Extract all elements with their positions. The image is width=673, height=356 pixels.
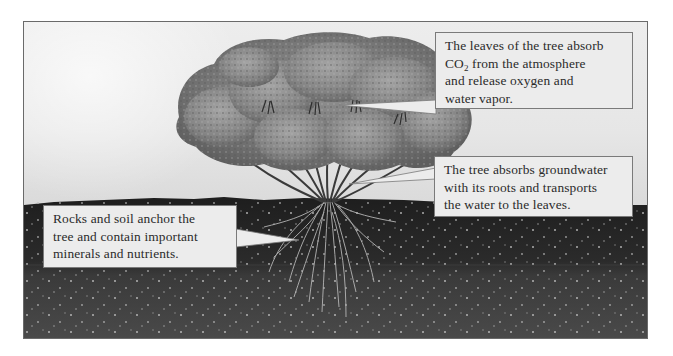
callout-soil: Rocks and soil anchor the tree and conta…: [43, 205, 237, 268]
callout-leaves-line-4: water vapor.: [445, 90, 624, 108]
callout-soil-line-3: minerals and nutrients.: [53, 245, 228, 263]
callout-leaves-line-1: The leaves of the tree absorb: [445, 37, 624, 55]
callout-leaves-line-2-rest: from the atmosphere: [469, 56, 586, 71]
callout-roots-line-3: the water to the leaves.: [444, 196, 624, 214]
callout-soil-line-1: Rocks and soil anchor the: [53, 210, 228, 228]
callout-leaves-line-3: and release oxygen and: [445, 72, 624, 90]
callout-leaves-line-2: CO2 from the atmosphere: [445, 55, 624, 73]
callout-roots-line-1: The tree absorbs groundwater: [444, 161, 624, 179]
callout-leaves: The leaves of the tree absorb CO2 from t…: [435, 32, 633, 109]
callout-roots: The tree absorbs groundwater with its ro…: [434, 156, 633, 217]
callout-roots-line-2: with its roots and transports: [444, 179, 624, 197]
co2-text: CO: [445, 56, 464, 71]
callout-soil-line-2: tree and contain important: [53, 228, 228, 246]
